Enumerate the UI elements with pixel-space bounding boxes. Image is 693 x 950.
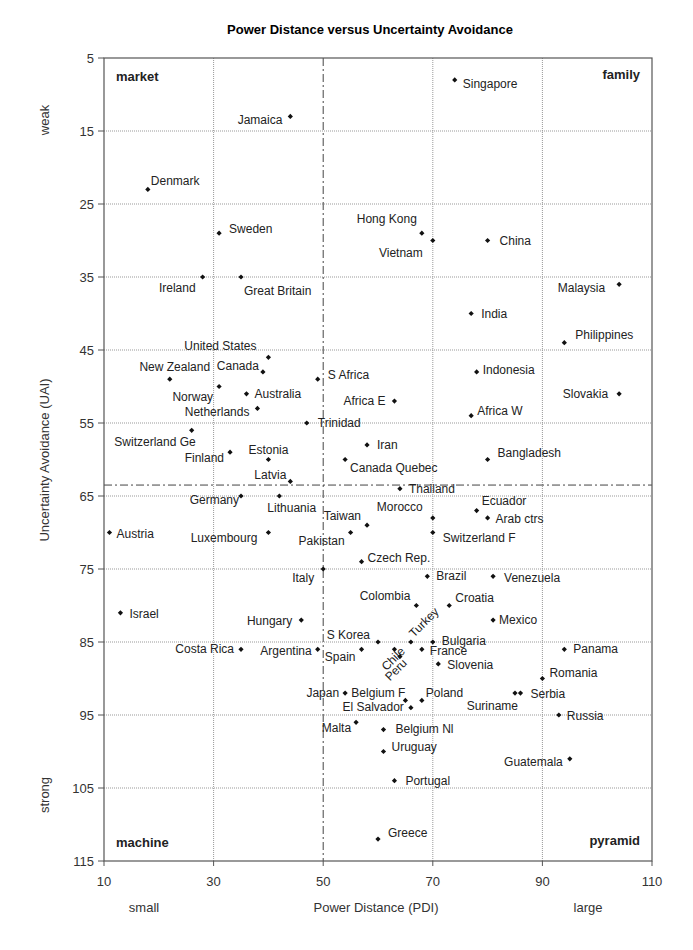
quadrant-label-machine: machine <box>116 835 169 850</box>
diamond-marker-icon <box>430 530 435 535</box>
diamond-marker-icon <box>343 691 348 696</box>
diamond-marker-icon <box>255 406 260 411</box>
data-point: Japan <box>306 686 347 700</box>
point-label: Malta <box>322 721 352 735</box>
data-points: SingaporeJamaicaDenmarkSwedenIrelandGrea… <box>107 77 633 842</box>
diamond-marker-icon <box>447 603 452 608</box>
data-point: Netherlands <box>185 405 260 419</box>
point-label: Denmark <box>151 174 201 188</box>
point-label: Singapore <box>463 77 518 91</box>
point-label: Australia <box>254 387 301 401</box>
data-point: New Zealand <box>139 360 210 382</box>
data-point: Africa E <box>343 394 397 408</box>
data-point: Serbia <box>518 687 566 701</box>
point-label: Italy <box>292 571 314 585</box>
point-label: Arab ctrs <box>496 512 544 526</box>
point-label: Austria <box>116 527 154 541</box>
diamond-marker-icon <box>189 428 194 433</box>
diamond-marker-icon <box>381 749 386 754</box>
y-tick-label: 75 <box>80 562 94 577</box>
x-axis-low-label: small <box>129 900 159 915</box>
point-label: Portugal <box>405 774 450 788</box>
diamond-marker-icon <box>562 340 567 345</box>
diamond-marker-icon <box>216 231 221 236</box>
data-point: Mexico <box>490 613 537 627</box>
diamond-marker-icon <box>375 639 380 644</box>
diamond-marker-icon <box>277 493 282 498</box>
point-label: Netherlands <box>185 405 250 419</box>
data-point: Latvia <box>254 468 293 484</box>
point-label: Mexico <box>499 613 537 627</box>
y-tick-label: 25 <box>80 197 94 212</box>
quadrant-label-family: family <box>602 67 640 82</box>
point-label: Argentina <box>260 644 312 658</box>
data-point: Denmark <box>145 174 200 192</box>
point-label: Hong Kong <box>357 212 417 226</box>
point-label: New Zealand <box>139 360 210 374</box>
data-point: Sweden <box>216 222 272 236</box>
diamond-marker-icon <box>359 647 364 652</box>
point-label: Indonesia <box>483 363 535 377</box>
data-point: Bangladesh <box>485 446 561 463</box>
y-tick-label: 55 <box>80 416 94 431</box>
data-point: Germany <box>190 493 244 507</box>
point-label: Slovenia <box>447 658 493 672</box>
diamond-marker-icon <box>364 442 369 447</box>
data-point: Australia <box>244 387 302 401</box>
y-tick-label: 105 <box>72 781 94 796</box>
point-label: Panama <box>573 642 618 656</box>
x-tick-label: 30 <box>206 874 220 889</box>
diamond-marker-icon <box>469 311 474 316</box>
diamond-marker-icon <box>266 355 271 360</box>
point-label: S Korea <box>327 628 371 642</box>
diamond-marker-icon <box>419 647 424 652</box>
point-label: Serbia <box>530 687 565 701</box>
data-point: Hong Kong <box>357 212 425 236</box>
data-point: Great Britain <box>238 274 311 298</box>
point-label: Switzerland F <box>443 531 516 545</box>
diamond-marker-icon <box>425 574 430 579</box>
data-point: Turkey <box>406 605 442 645</box>
point-label: Croatia <box>455 591 494 605</box>
data-point: Lithuania <box>267 493 316 515</box>
diamond-marker-icon <box>485 515 490 520</box>
data-point: Morocco <box>377 500 436 521</box>
point-label: Ecuador <box>482 494 527 508</box>
diamond-marker-icon <box>304 420 309 425</box>
point-label: Canada Quebec <box>350 461 437 475</box>
data-point: Czech Rep. <box>359 551 430 565</box>
y-tick-label: 85 <box>80 635 94 650</box>
point-label: Latvia <box>254 468 286 482</box>
diamond-marker-icon <box>490 618 495 623</box>
diamond-marker-icon <box>288 479 293 484</box>
diamond-marker-icon <box>452 77 457 82</box>
point-label: Greece <box>388 826 428 840</box>
quadrant-label-pyramid: pyramid <box>589 833 640 848</box>
diamond-marker-icon <box>419 698 424 703</box>
data-point: Iran <box>364 438 397 452</box>
diamond-marker-icon <box>244 391 249 396</box>
point-label: United States <box>184 339 256 353</box>
diamond-marker-icon <box>200 274 205 279</box>
point-label: Estonia <box>248 443 288 457</box>
point-label: Iran <box>377 438 398 452</box>
data-point: Belgium Nl <box>381 722 454 736</box>
data-point: Austria <box>107 527 154 541</box>
y-tick-label: 95 <box>80 708 94 723</box>
data-point: Greece <box>375 826 427 842</box>
point-label: Sweden <box>229 222 272 236</box>
data-point: Guatemala <box>504 755 572 769</box>
diamond-marker-icon <box>343 457 348 462</box>
data-point: Taiwan <box>324 509 370 528</box>
data-point: Slovenia <box>436 658 494 672</box>
diamond-marker-icon <box>238 274 243 279</box>
data-point: Indonesia <box>474 363 535 377</box>
data-point: Singapore <box>452 77 518 91</box>
x-tick-label: 110 <box>642 874 663 889</box>
data-point: Canada <box>217 359 266 375</box>
point-label: Africa W <box>477 404 523 418</box>
data-point: Uruguay <box>381 740 437 755</box>
diamond-marker-icon <box>359 559 364 564</box>
data-point: India <box>469 307 508 321</box>
point-label: Hungary <box>247 614 292 628</box>
